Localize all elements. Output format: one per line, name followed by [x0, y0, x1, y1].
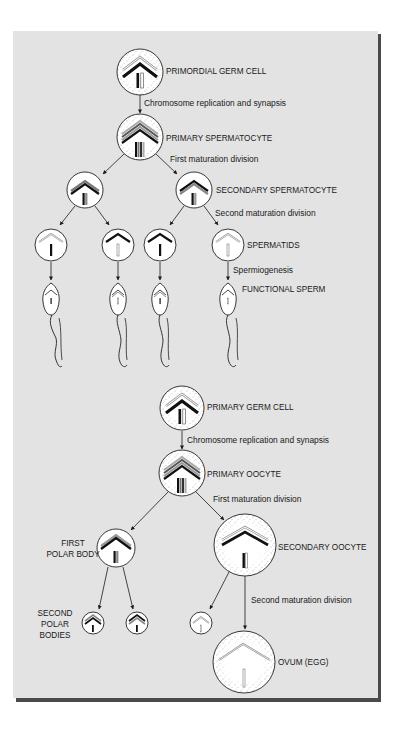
label-first-polar-body-1: FIRST: [61, 539, 85, 548]
ovum: [213, 631, 275, 693]
secondary-oocyte: [214, 514, 276, 576]
label-secondary-oocyte: SECONDARY OOCYTE: [278, 543, 367, 552]
secondary-spermatocyte-left: [67, 172, 103, 208]
step-oo-first-division: First maturation division: [213, 494, 302, 504]
label-second-polar-bodies-1: SECOND: [37, 609, 72, 618]
primordial-germ-cell: [117, 49, 163, 95]
label-primary-oocyte: PRIMARY OOCYTE: [207, 470, 281, 479]
step-replication: Chromosome replication and synapsis: [144, 98, 286, 108]
label-secondary-spermatocyte: SECONDARY SPERMATOCYTE: [216, 186, 337, 195]
label-second-polar-bodies-3: BODIES: [40, 631, 71, 640]
second-polar-body-1: [82, 612, 104, 634]
spermatid-1: [35, 229, 67, 261]
second-polar-body-2: [126, 612, 148, 634]
second-polar-body-3: [190, 612, 212, 634]
meiosis-diagram: PRIMORDIAL GERM CELL Chromosome replicat…: [0, 0, 407, 731]
primary-germ-cell: [160, 386, 204, 430]
step-spermiogenesis: Spermiogenesis: [233, 265, 293, 275]
primary-oocyte: [159, 450, 205, 496]
label-spermatids: SPERMATIDS: [247, 241, 300, 250]
primary-spermatocyte: [117, 114, 163, 160]
spermatid-4: [212, 229, 244, 261]
first-polar-body: [97, 529, 135, 567]
secondary-spermatocyte-right: [176, 172, 212, 208]
label-ovum: OVUM (EGG): [278, 658, 329, 667]
step-oo-second-division: Second maturation division: [251, 595, 352, 605]
label-second-polar-bodies-2: POLAR: [41, 620, 69, 629]
label-functional-sperm: FUNCTIONAL SPERM: [242, 285, 326, 294]
step-first-division: First maturation division: [170, 154, 259, 164]
spermatid-2: [102, 229, 134, 261]
spermatid-3: [144, 229, 176, 261]
label-primary-spermatocyte: PRIMARY SPERMATOCYTE: [166, 134, 273, 143]
step-oo-replication: Chromosome replication and synapsis: [187, 435, 329, 445]
label-primary-germ-cell: PRIMARY GERM CELL: [207, 403, 294, 412]
label-primordial-germ-cell: PRIMORDIAL GERM CELL: [166, 67, 267, 76]
step-second-division: Second maturation division: [215, 208, 316, 218]
label-first-polar-body-2: POLAR BODY: [46, 550, 100, 559]
